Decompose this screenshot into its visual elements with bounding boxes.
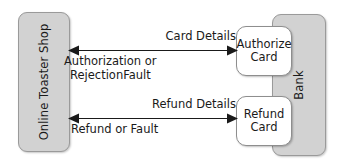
operation-refund-card-line2: Card xyxy=(251,120,278,134)
operation-authorize-card-label: Authorize Card xyxy=(233,38,294,65)
participant-online-toaster-shop-label: Online Toaster Shop xyxy=(37,24,51,141)
operation-refund-card-label: Refund Card xyxy=(241,108,287,135)
operation-refund-card[interactable]: Refund Card xyxy=(236,96,292,146)
participant-online-toaster-shop[interactable]: Online Toaster Shop xyxy=(18,12,70,152)
message-authorization-or-rejectionfault: Authorization or RejectionFault xyxy=(64,54,214,82)
participant-bank-label: Bank xyxy=(292,70,306,99)
operation-authorize-card-line1: Authorize xyxy=(236,37,291,51)
operation-authorize-card-line2: Card xyxy=(251,50,278,64)
collaboration-diagram: Bank Online Toaster Shop Authorize Card … xyxy=(0,0,341,164)
operation-refund-card-line1: Refund xyxy=(244,107,284,121)
message-authorization-or-rejectionfault-line2: RejectionFault xyxy=(64,68,151,82)
message-card-details: Card Details xyxy=(96,29,236,43)
message-refund-or-fault-label: Refund or Fault xyxy=(71,122,158,136)
message-card-details-label: Card Details xyxy=(166,29,236,43)
message-authorization-or-rejectionfault-line1: Authorization or xyxy=(64,54,156,68)
message-refund-details: Refund Details xyxy=(86,97,236,111)
operation-authorize-card[interactable]: Authorize Card xyxy=(236,26,292,76)
message-refund-or-fault: Refund or Fault xyxy=(71,122,221,136)
message-refund-details-label: Refund Details xyxy=(152,97,236,111)
